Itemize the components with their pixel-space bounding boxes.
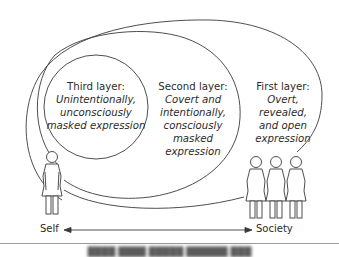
figure-caption: ████ ████ █████ ██████ ███: [0, 247, 339, 257]
second-layer-desc-3: consciously: [144, 119, 242, 132]
self-society-arrow: [64, 228, 252, 233]
second-layer-desc-1: Covert and: [144, 93, 242, 106]
first-layer-desc-3: and open: [248, 119, 318, 132]
third-layer-desc-3: masked expression: [44, 119, 148, 132]
first-layer-desc-1: Overt,: [248, 93, 318, 106]
first-layer-title: First layer:: [248, 80, 318, 93]
self-label: Self: [40, 223, 59, 234]
third-layer-desc-2: unconsciously: [44, 106, 148, 119]
third-layer-title: Third layer:: [44, 80, 148, 93]
arrow-left-icon: [64, 228, 71, 233]
first-layer-desc-4: expression: [248, 132, 318, 145]
arrow-right-icon: [245, 228, 252, 233]
first-layer-desc-2: revealed,: [248, 106, 318, 119]
society-label: Society: [256, 223, 293, 234]
self-person-icon: [42, 152, 62, 215]
second-layer-label: Second layer: Covert and intentionally, …: [144, 80, 242, 158]
first-layer-label: First layer: Overt, revealed, and open e…: [248, 80, 318, 145]
second-layer-title: Second layer:: [144, 80, 242, 93]
third-layer-desc-1: Unintentionally,: [44, 93, 148, 106]
society-people-icon: [246, 157, 306, 219]
second-layer-desc-2: intentionally,: [144, 106, 242, 119]
second-layer-desc-4: masked expression: [144, 132, 242, 158]
third-layer-label: Third layer: Unintentionally, unconsciou…: [44, 80, 148, 132]
divider: [0, 243, 339, 244]
